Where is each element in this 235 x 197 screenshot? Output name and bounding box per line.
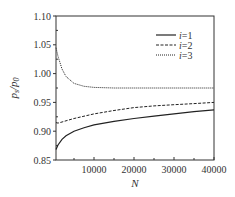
y-tick-label: 0.85 <box>34 155 52 166</box>
legend-label: i=3 <box>179 50 192 61</box>
series-group <box>56 48 214 150</box>
svg-text:ps/p0: ps/p0 <box>7 77 21 99</box>
line-chart: 0.850.900.951.001.051.10 100002000030000… <box>0 0 235 197</box>
series-i-1 <box>56 110 214 150</box>
x-tick-label: 40000 <box>202 164 227 175</box>
y-axis-title: ps/p0 <box>7 77 21 99</box>
series-i-2 <box>56 102 214 123</box>
x-tick-label: 30000 <box>162 164 187 175</box>
x-tick-label: 10000 <box>82 164 107 175</box>
y-tick-label: 1.00 <box>34 68 52 79</box>
y-tick-label: 0.90 <box>34 126 52 137</box>
legend: i=1i=2i=3 <box>156 30 192 61</box>
x-axis-title: N <box>130 177 139 189</box>
y-tick-label: 0.95 <box>34 97 52 108</box>
x-tick-label: 20000 <box>122 164 147 175</box>
y-tick-label: 1.10 <box>34 11 52 22</box>
y-tick-label: 1.05 <box>34 39 52 50</box>
y-axis: 0.850.900.951.001.051.10 <box>34 11 59 166</box>
